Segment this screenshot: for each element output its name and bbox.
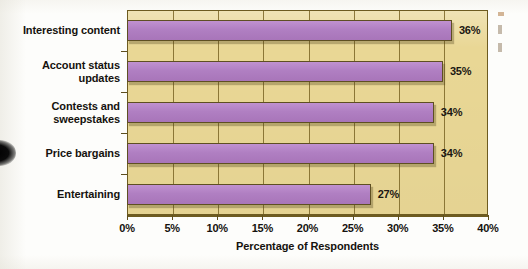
x-axis-tick [217,215,218,220]
chart-page: Interesting contentAccount statusupdates… [0,0,528,269]
bar-row: 27% [127,184,528,205]
horizontal-bar-chart: Interesting contentAccount statusupdates… [0,0,528,269]
x-axis-title: Percentage of Respondents [127,240,488,252]
bar-value-label: 34% [441,147,462,159]
bar [127,61,443,82]
x-axis-tick [398,215,399,220]
x-axis-tick [127,215,128,220]
bar-value-label: 27% [378,188,399,200]
bar-row: 35% [127,61,528,82]
bar-row: 34% [127,102,528,123]
x-axis-tick-label: 10% [207,222,228,234]
y-axis-tick [121,92,127,93]
x-axis-tick-label: 0% [119,222,135,234]
bar [127,20,452,41]
x-axis-tick-label: 35% [432,222,453,234]
category-label: Contests andsweepstakes [0,100,120,126]
y-axis-tick [121,174,127,175]
category-label: Price bargains [0,147,120,160]
y-axis-tick [121,133,127,134]
bar-row: 36% [127,20,528,41]
x-axis-tick [172,215,173,220]
y-axis-tick [121,51,127,52]
x-axis-tick [353,215,354,220]
x-axis-tick-label: 5% [164,222,180,234]
x-axis-tick-label: 40% [477,222,498,234]
x-axis-tick [488,215,489,220]
category-label: Account statusupdates [0,59,120,85]
x-axis-tick-label: 20% [297,222,318,234]
x-axis-tick-label: 30% [387,222,408,234]
bar-value-label: 36% [459,24,480,36]
x-axis-tick [308,215,309,220]
x-axis-tick-label: 15% [252,222,273,234]
x-axis-tick [443,215,444,220]
category-label: Interesting content [0,24,120,37]
bar [127,102,434,123]
x-axis-tick [262,215,263,220]
bar [127,184,371,205]
category-label: Entertaining [0,188,120,201]
bar-value-label: 35% [450,65,471,77]
bar [127,143,434,164]
x-axis-tick-label: 25% [342,222,363,234]
bar-value-label: 34% [441,106,462,118]
bar-row: 34% [127,143,528,164]
